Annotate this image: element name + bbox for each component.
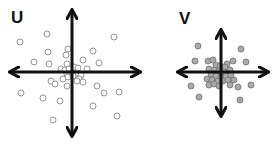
data-point bbox=[31, 59, 37, 65]
data-point bbox=[227, 82, 233, 88]
data-point bbox=[192, 58, 198, 64]
data-point bbox=[52, 81, 58, 87]
data-point bbox=[196, 94, 202, 100]
data-point bbox=[96, 60, 102, 66]
data-point bbox=[80, 79, 86, 85]
data-point bbox=[231, 77, 237, 83]
panel-v bbox=[180, 32, 266, 114]
data-point bbox=[111, 34, 117, 40]
data-point bbox=[90, 48, 96, 54]
data-point bbox=[57, 98, 63, 104]
data-point bbox=[116, 89, 122, 95]
data-point bbox=[63, 52, 69, 58]
data-point bbox=[44, 31, 50, 37]
panel-u bbox=[12, 12, 138, 134]
data-point bbox=[114, 113, 120, 119]
data-point bbox=[243, 59, 249, 65]
data-point bbox=[230, 58, 236, 64]
data-point bbox=[90, 103, 96, 109]
data-point bbox=[248, 82, 254, 88]
data-point bbox=[45, 49, 51, 55]
data-point bbox=[94, 83, 100, 89]
data-point bbox=[188, 83, 194, 89]
data-point bbox=[17, 39, 23, 45]
data-point bbox=[101, 90, 107, 96]
data-point bbox=[235, 84, 241, 90]
data-point bbox=[237, 97, 243, 103]
data-point bbox=[238, 46, 244, 52]
data-point bbox=[74, 78, 80, 84]
data-point bbox=[50, 117, 56, 123]
data-point bbox=[195, 43, 201, 49]
data-point bbox=[46, 61, 52, 67]
data-point bbox=[80, 57, 86, 63]
data-point bbox=[64, 83, 70, 89]
scatter-diagram bbox=[0, 0, 277, 144]
data-point bbox=[18, 90, 24, 96]
data-point bbox=[65, 46, 71, 52]
data-point bbox=[40, 95, 46, 101]
